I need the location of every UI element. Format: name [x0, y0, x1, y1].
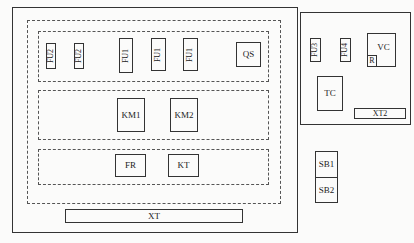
button-sb2-label: SB2 — [319, 186, 335, 195]
fuse-fu3-label: FU3 — [312, 43, 320, 57]
resistor-r: R — [367, 55, 377, 67]
fuse-fu2-b-label: FU2 — [75, 49, 83, 63]
transformer-tc-label: TC — [324, 89, 336, 98]
fuse-fu2-a: FU2 — [46, 43, 56, 69]
fuse-fu2-b: FU2 — [74, 43, 84, 69]
resistor-r-label: R — [369, 57, 374, 65]
rectifier-vc-label: VC — [377, 43, 390, 52]
fuse-fu1-c: FU1 — [183, 38, 198, 71]
switch-qs-label: QS — [243, 50, 255, 59]
fuse-fu1-c-label: FU1 — [187, 47, 195, 61]
terminal-block-xt: XT — [65, 209, 243, 223]
terminal-block-xt-label: XT — [148, 212, 160, 221]
switch-qs: QS — [236, 42, 261, 67]
contactor-km1-label: KM1 — [121, 111, 140, 120]
fuse-fu2-a-label: FU2 — [47, 49, 55, 63]
fuse-fu1-b: FU1 — [151, 38, 166, 71]
fuse-fu4: FU4 — [340, 38, 351, 62]
terminal-block-xt2: XT2 — [354, 108, 406, 119]
relay-kt-label: KT — [178, 161, 190, 170]
fuse-fu3: FU3 — [310, 38, 321, 62]
contactor-km2: KM2 — [170, 98, 198, 132]
fuse-fu1-a: FU1 — [119, 38, 133, 73]
contactor-km1: KM1 — [117, 98, 145, 132]
relay-group — [38, 149, 269, 185]
transformer-tc: TC — [317, 76, 343, 111]
button-sb1-label: SB1 — [319, 160, 335, 169]
fuse-fu1-a-label: FU1 — [122, 48, 130, 62]
contactor-group — [38, 90, 269, 140]
fuse-fu4-label: FU4 — [342, 43, 350, 57]
terminal-block-xt2-label: XT2 — [373, 110, 388, 118]
relay-kt: KT — [168, 154, 199, 177]
button-sb2: SB2 — [315, 177, 338, 203]
relay-fr-label: FR — [125, 161, 136, 170]
contactor-km2-label: KM2 — [174, 111, 193, 120]
fuse-fu1-b-label: FU1 — [155, 47, 163, 61]
button-sb1: SB1 — [315, 151, 338, 178]
relay-fr: FR — [115, 154, 146, 177]
